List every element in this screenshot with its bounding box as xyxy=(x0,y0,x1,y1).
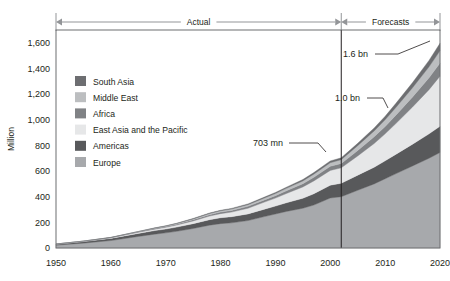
y-axis-title: Million xyxy=(6,127,16,151)
tourist-arrivals-stacked-area-chart: ActualForecasts 02004006008001,0001,2001… xyxy=(0,0,450,281)
period-label-actual: Actual xyxy=(187,17,211,27)
callout-leader-line xyxy=(375,41,430,54)
legend-swatch-east-asia-and-the-pacific xyxy=(75,125,86,135)
x-tick-label: 1970 xyxy=(156,258,176,268)
x-tick-label: 1960 xyxy=(101,258,121,268)
legend-swatch-middle-east xyxy=(75,92,86,102)
range-arrowhead xyxy=(56,18,62,25)
legend-label-south-asia: South Asia xyxy=(93,77,134,87)
y-tick-label: 1,600 xyxy=(27,38,50,48)
x-axis: 19501960197019801990200020102020 xyxy=(46,258,450,268)
plot-area xyxy=(56,30,440,248)
y-tick-label: 1,400 xyxy=(27,64,50,74)
legend-label-americas: Americas xyxy=(93,141,129,151)
y-tick-label: 1,000 xyxy=(27,115,50,125)
legend: South AsiaMiddle EastAfricaEast Asia and… xyxy=(75,76,188,168)
legend-label-east-asia-and-the-pacific: East Asia and the Pacific xyxy=(93,125,188,135)
callout-label-1-0-bn: 1.0 bn xyxy=(335,93,360,103)
range-arrowhead xyxy=(341,18,347,25)
x-tick-label: 2000 xyxy=(320,258,340,268)
range-arrowhead xyxy=(335,18,341,25)
legend-label-europe: Europe xyxy=(93,158,121,168)
callout-leader-line xyxy=(289,143,326,152)
x-tick-label: 1990 xyxy=(265,258,285,268)
y-tick-label: 200 xyxy=(35,218,50,228)
legend-label-middle-east: Middle East xyxy=(93,93,139,103)
callout-leader-line xyxy=(367,98,388,108)
x-tick-label: 2020 xyxy=(430,258,450,268)
y-tick-label: 600 xyxy=(35,166,50,176)
callout-label-1-6-bn: 1.6 bn xyxy=(343,49,368,59)
x-tick-label: 1950 xyxy=(46,258,66,268)
legend-label-africa: Africa xyxy=(93,109,115,119)
y-axis: 02004006008001,0001,2001,4001,600 xyxy=(27,38,50,253)
y-tick-label: 800 xyxy=(35,141,50,151)
x-tick-label: 1980 xyxy=(211,258,231,268)
y-tick-label: 400 xyxy=(35,192,50,202)
chart-container: ActualForecasts 02004006008001,0001,2001… xyxy=(0,0,450,281)
legend-swatch-africa xyxy=(75,108,86,118)
callout-label-703-mn: 703 mn xyxy=(253,138,283,148)
period-range-indicator: ActualForecasts xyxy=(56,13,440,31)
period-label-forecasts: Forecasts xyxy=(372,17,409,27)
y-tick-label: 0 xyxy=(45,243,50,253)
legend-swatch-south-asia xyxy=(75,76,86,86)
x-tick-label: 2010 xyxy=(375,258,395,268)
y-tick-label: 1,200 xyxy=(27,89,50,99)
legend-swatch-americas xyxy=(75,141,86,151)
legend-swatch-europe xyxy=(75,157,86,167)
range-arrowhead xyxy=(434,18,440,25)
